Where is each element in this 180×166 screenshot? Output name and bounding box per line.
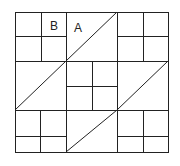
diagonal-bottom-center: [66, 110, 117, 152]
label-a: A: [74, 21, 82, 35]
diagonal-mid-left: [15, 61, 66, 110]
diagonal-mid-right: [117, 61, 168, 110]
label-b: B: [50, 19, 58, 33]
diagonal-top-center: [66, 12, 117, 61]
quilt-diagram: B A: [0, 0, 180, 166]
